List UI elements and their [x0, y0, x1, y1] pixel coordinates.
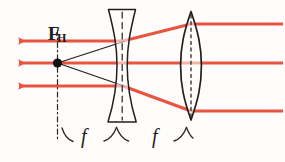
optics-ray-diagram-figure: FH f f [0, 0, 285, 162]
lower-ray-between-lenses [123, 86, 191, 111]
left-brace-end-tick-b [117, 128, 129, 142]
converging-lens [181, 12, 202, 121]
diverging-lens [108, 10, 136, 123]
lower-construction-line [58, 63, 125, 86]
left-brace-end-tick-a [104, 128, 117, 142]
focal-point-label-subscript: H [57, 31, 66, 45]
focal-point-dot [53, 58, 62, 67]
right-brace-end-tick-a [174, 128, 187, 142]
right-brace-end-tick-b [187, 128, 194, 139]
ray-diagram-canvas [0, 0, 285, 162]
left-brace-start-tick [62, 128, 73, 142]
upper-ray-between-lenses [123, 24, 191, 41]
right-focal-brace [174, 128, 193, 142]
focal-length-label-left: f [81, 126, 87, 146]
left-focal-brace [62, 128, 129, 142]
upper-construction-line [58, 42, 125, 64]
focal-point-label: FH [48, 24, 66, 44]
lower-ray [19, 86, 283, 111]
focal-length-label-right: f [152, 126, 158, 146]
